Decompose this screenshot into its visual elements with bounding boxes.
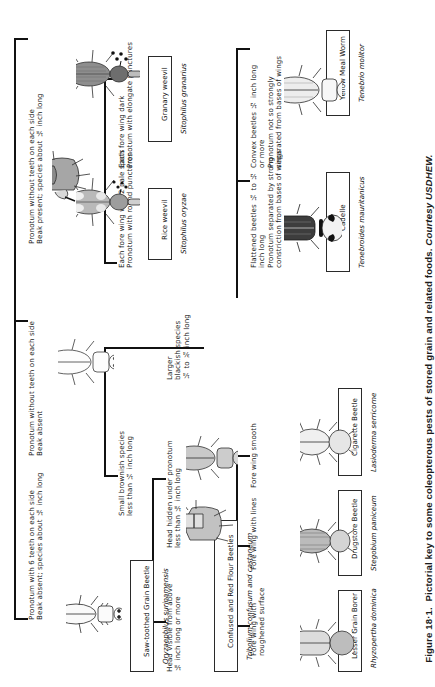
caption-label: Figure 18·1. [423, 607, 434, 663]
caption-credit: Courtesy USDHEW. [423, 154, 434, 245]
species-scientific-name: Lasioderma serricorne [369, 392, 378, 472]
illustration-lesser-grain-borer [300, 600, 354, 686]
couplet-small-brownish: Small brownish species less than ¼ inch … [118, 400, 135, 516]
species-scientific-name: Sitophilus granarius [179, 60, 188, 138]
couplet-fore-wing-smooth: Fore wing smooth [250, 410, 258, 488]
species-box-rice-weevil: Rice weevil Sitophilus oryzae [148, 188, 172, 260]
bracket-blackish-spine [236, 48, 238, 298]
couplet-convex-beetles: Convex beetles ½ inch long or more Prono… [250, 8, 283, 168]
species-common-name: Rice weevil [160, 199, 169, 239]
species-scientific-name: Tenebroides mauritanicus [357, 176, 366, 268]
figure-caption: Figure 18·1. Pictorial key to some coleo… [412, 14, 435, 674]
caption-text: Pictorial key to some coleopterous pests… [423, 248, 434, 601]
illustration-saw-toothed-grain-beetle [66, 566, 122, 662]
caption-space2 [423, 246, 434, 249]
species-box-saw-toothed-grain-beetle: Saw-toothed Grain Beetle Oryzaephilus su… [130, 560, 154, 672]
couplet-pronotum-6-teeth: Pronotum with 6 teeth on each side Beak … [28, 430, 45, 620]
species-common-name: Granary weevil [160, 68, 169, 122]
bracket-level1-spine [14, 38, 16, 324]
couplet-head-hidden: Head hidden under pronotum less than ⅛ i… [166, 420, 183, 548]
species-scientific-name: Sitophilus oryzae [179, 192, 188, 256]
illustration-cadelle [284, 182, 342, 274]
species-scientific-name: Tenebrio molitor [357, 34, 366, 112]
bracket-blackish-stub-bottom [236, 180, 250, 182]
illustration-weevil-lateral [52, 120, 98, 230]
illustration-yellow-meal-worm [284, 42, 342, 138]
bracket-blackish-stub-top [236, 48, 250, 50]
bracket-level1-stub [14, 38, 28, 40]
species-scientific-name: Oryzaephilus surinamensis [161, 564, 170, 668]
illustration-cigarette-beetle [300, 400, 354, 484]
bracket-root-spine [14, 320, 16, 620]
illustration-drugstore-beetle [300, 498, 354, 584]
bracket-root-stub-top [14, 320, 28, 322]
species-scientific-name: Stegobium paniceum [369, 494, 378, 572]
illustration-granary-weevil [76, 22, 140, 126]
bracket-headsplit-stub-top [152, 478, 166, 480]
species-scientific-name: Tribolium confusum and castaneum [245, 524, 254, 668]
figure-canvas: Pronotum with 6 teeth on each side Beak … [0, 0, 435, 687]
caption-space [423, 601, 434, 607]
couplet-no-teeth-beak-present: Pronotum without teeth on each side Beak… [28, 28, 45, 244]
illustration-beak-absent-beetle [58, 312, 114, 412]
illustration-flour-beetle-lateral [186, 476, 238, 572]
bracket-weevils-stub-bottom [104, 262, 117, 264]
bracket-beakabsent-stub-bottom [104, 475, 118, 477]
couplet-larger-blackish: Larger blackish species ¼ to ¾ inch long [166, 300, 191, 380]
bracket-root-stub-bottom [14, 618, 28, 620]
couplet-no-teeth-beak-absent: Pronotum without teeth on each side Beak… [28, 296, 45, 456]
species-scientific-name: Rhyzopertha dominica [369, 594, 378, 668]
bracket-forewing-stub-top [236, 455, 250, 457]
species-common-name: Saw-toothed Grain Beetle [142, 566, 151, 657]
species-box-granary-weevil: Granary weevil Sitophilus granarius [148, 56, 172, 142]
